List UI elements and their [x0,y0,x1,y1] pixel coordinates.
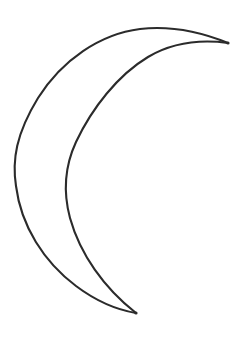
lower-cusp-point [134,311,137,314]
drawing-canvas: Crescent Moon A waning crescent shape fo… [0,0,239,345]
crescent-moon-figure [0,0,239,345]
canvas-background [0,0,239,345]
upper-cusp-point [226,41,229,44]
